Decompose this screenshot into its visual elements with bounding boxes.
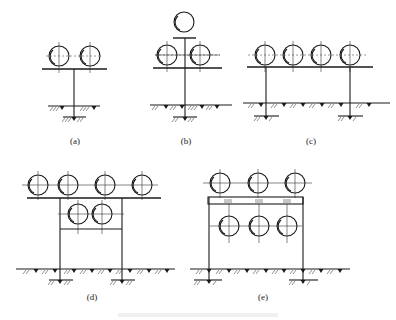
pipe (58, 171, 78, 200)
panel-e: (e) (190, 169, 350, 302)
panel-label: (e) (258, 292, 268, 302)
panel-d: (d) (16, 171, 175, 302)
pipe (28, 171, 48, 200)
hanger-clamp (224, 200, 291, 202)
pipe-support-diagram: (a) (0, 0, 396, 320)
pipe (95, 171, 115, 200)
pipe (174, 12, 194, 32)
pipe (219, 204, 239, 243)
pipe (249, 204, 269, 243)
panel-label: (b) (181, 136, 192, 146)
panel-label: (a) (70, 136, 80, 146)
figure-caption (118, 313, 278, 317)
panel-label: (d) (87, 292, 98, 302)
pipe (248, 169, 268, 198)
panel-a: (a) (42, 42, 107, 146)
panel-c: (c) (243, 41, 390, 146)
pipe (132, 171, 152, 200)
panel-b: (b) (150, 12, 232, 146)
pipe (285, 169, 305, 198)
pipe (277, 204, 297, 243)
panel-label: (c) (306, 136, 316, 146)
double-crossbeam (208, 197, 303, 204)
pipe (210, 169, 230, 198)
ground-hatch (50, 107, 89, 111)
